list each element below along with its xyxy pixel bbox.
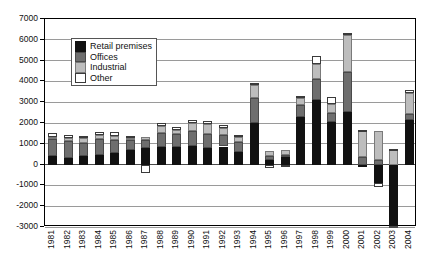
y-tick-label: -2000: [0, 201, 38, 209]
x-tick-label: 1999: [326, 230, 334, 249]
bar-segment-other: [265, 165, 274, 168]
bar-segment-other: [219, 125, 228, 127]
gridline--3000: [45, 227, 415, 228]
x-tick-label: 2003: [388, 230, 396, 249]
bar-segment-other: [172, 127, 181, 130]
x-tick-label: 1994: [249, 230, 257, 249]
x-tick-label: 1992: [218, 230, 226, 249]
bar-segment-retail: [79, 156, 88, 165]
bar-segment-offices: [188, 131, 197, 146]
bar-segment-offices: [48, 139, 57, 156]
bar-segment-other: [374, 183, 383, 187]
bar-column: [389, 19, 398, 225]
x-tick-label: 1981: [47, 230, 55, 249]
bar-segment-offices: [203, 134, 212, 148]
legend-item-retail: Retail premises: [75, 41, 152, 52]
bar-column: [358, 19, 367, 225]
bar-segment-offices: [141, 140, 150, 148]
bar-segment-retail: [374, 165, 383, 184]
bar-segment-industrial: [64, 138, 73, 141]
bar-segment-industrial: [219, 128, 228, 135]
x-tick-label: 1982: [63, 230, 71, 249]
bar-segment-retail: [358, 165, 367, 167]
x-tick-label: 1995: [264, 230, 272, 249]
bar-segment-industrial: [405, 93, 414, 114]
bar-segment-other: [64, 135, 73, 138]
bar-segment-industrial: [374, 131, 383, 160]
bar-segment-other: [343, 33, 352, 35]
y-tick-label: 2000: [0, 118, 38, 126]
bar-segment-offices: [64, 141, 73, 157]
bar-segment-offices: [126, 140, 135, 150]
bar-segment-offices: [95, 139, 104, 155]
bar-segment-industrial: [281, 150, 290, 155]
bar-segment-offices: [405, 114, 414, 120]
bar-segment-other: [405, 90, 414, 93]
bar-segment-retail: [405, 120, 414, 165]
bar-chart: 70006000500040003000200010000-1000-2000-…: [0, 0, 430, 278]
x-tick-label: 1993: [233, 230, 241, 249]
bar-segment-industrial: [343, 35, 352, 72]
bar-segment-retail: [110, 153, 119, 164]
bar-segment-other: [79, 136, 88, 138]
bar-segment-industrial: [389, 150, 398, 164]
bar-segment-other: [234, 135, 243, 137]
bar-segment-offices: [296, 105, 305, 117]
bar-segment-other: [296, 96, 305, 98]
bar-segment-industrial: [250, 85, 259, 98]
bar-segment-industrial: [157, 126, 166, 133]
legend-item-offices: Offices: [75, 52, 152, 63]
x-tick-label: 1997: [295, 230, 303, 249]
bar-segment-industrial: [188, 123, 197, 132]
x-tick-label: 1988: [156, 230, 164, 249]
x-tick-label: 2001: [357, 230, 365, 249]
bar-column: [219, 19, 228, 225]
legend-label-retail: Retail premises: [90, 41, 152, 51]
x-tick-label: 1998: [311, 230, 319, 249]
bar-segment-retail: [95, 155, 104, 165]
bar-segment-offices: [312, 79, 321, 100]
bar-segment-offices: [157, 133, 166, 147]
y-tick-label: -3000: [0, 222, 38, 230]
bar-column: [281, 19, 290, 225]
x-tick-label: 2004: [404, 230, 412, 249]
bar-segment-industrial: [265, 151, 274, 155]
bar-segment-retail: [219, 147, 228, 165]
bar-segment-industrial: [110, 136, 119, 140]
bar-column: [405, 19, 414, 225]
bar-segment-retail: [188, 146, 197, 165]
bar-segment-industrial: [79, 138, 88, 142]
bar-segment-offices: [281, 155, 290, 157]
y-tick-label: 1000: [0, 139, 38, 147]
bar-segment-retail: [234, 152, 243, 164]
bar-segment-offices: [234, 142, 243, 152]
bar-segment-offices: [250, 98, 259, 123]
bar-segment-offices: [79, 143, 88, 156]
bar-segment-offices: [265, 156, 274, 161]
bar-segment-other: [188, 120, 197, 123]
x-tick-label: 1991: [202, 230, 210, 249]
bar-column: [312, 19, 321, 225]
bar-segment-other: [358, 130, 367, 132]
bar-segment-retail: [172, 147, 181, 165]
legend-swatch-industrial: [75, 62, 86, 73]
y-tick-label: 4000: [0, 76, 38, 84]
bar-segment-other: [281, 165, 290, 168]
bar-segment-other: [95, 132, 104, 135]
x-tick-label: 1986: [125, 230, 133, 249]
bar-segment-other: [126, 136, 135, 138]
bar-segment-industrial: [126, 138, 135, 140]
bar-segment-industrial: [48, 137, 57, 139]
bar-column: [234, 19, 243, 225]
legend-swatch-retail: [75, 41, 86, 52]
legend-label-other: Other: [90, 73, 113, 83]
bar-segment-retail: [312, 100, 321, 164]
bar-segment-other: [157, 123, 166, 126]
bar-segment-offices: [219, 135, 228, 147]
legend-label-industrial: Industrial: [90, 62, 127, 72]
chart-legend: Retail premises Offices Industrial Other: [71, 38, 157, 86]
bar-segment-retail: [281, 157, 290, 165]
legend-item-other: Other: [75, 73, 152, 84]
bar-column: [374, 19, 383, 225]
bar-segment-other: [141, 165, 150, 174]
